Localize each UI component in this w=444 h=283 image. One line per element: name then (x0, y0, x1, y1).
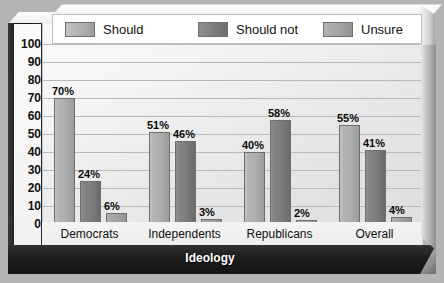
legend-item[interactable]: Unsure (323, 20, 403, 38)
y-axis-tick-label: 100 (15, 38, 41, 50)
x-axis-title: Ideology (8, 251, 412, 265)
x-axis-category-label: Independents (137, 227, 232, 241)
y-axis-tick-label: 70 (15, 92, 41, 104)
gridline (43, 134, 423, 135)
gridline (43, 80, 423, 81)
y-axis-tick-label: 90 (15, 56, 41, 68)
bar-value-label: 3% (199, 206, 215, 218)
x-axis-category-label: Democrats (42, 227, 137, 241)
bar (175, 141, 196, 224)
chart-3d-frame: Percent 1009080706050403020100 70%24%6%5… (0, 0, 444, 283)
chart-screenshot: Percent 1009080706050403020100 70%24%6%5… (0, 0, 444, 283)
y-axis-tick-label: 0 (15, 218, 41, 230)
legend-label: Should not (236, 22, 298, 37)
bar-value-label: 4% (389, 204, 405, 216)
gridline (43, 62, 423, 63)
bar-value-label: 46% (173, 128, 195, 140)
bar-value-label: 24% (78, 168, 100, 180)
gridline (43, 116, 423, 117)
legend-label: Unsure (361, 22, 403, 37)
y-axis-tick-label: 50 (15, 128, 41, 140)
bar-value-label: 51% (147, 119, 169, 131)
x-axis-category-label: Overall (327, 227, 422, 241)
y-axis-tick-label: 60 (15, 110, 41, 122)
legend-swatch-icon (323, 22, 353, 37)
bar-value-label: 41% (363, 137, 385, 149)
gridline (43, 44, 423, 45)
x-axis-category-labels: DemocratsIndependentsRepublicansOverall (42, 222, 422, 246)
y-axis-tick-label: 20 (15, 182, 41, 194)
bar-value-label: 2% (294, 207, 310, 219)
plot-area: 70%24%6%51%46%3%40%58%2%55%41%4% (42, 24, 423, 246)
y-axis-tick-column: 1009080706050403020100 (14, 24, 41, 246)
bar-value-label: 6% (104, 200, 120, 212)
bar-value-label: 55% (337, 112, 359, 124)
bar (244, 152, 265, 224)
gridline (43, 98, 423, 99)
legend-item[interactable]: Should not (198, 20, 298, 38)
legend-label: Should (103, 22, 143, 37)
x-axis-category-label: Republicans (232, 227, 327, 241)
y-axis-tick-label: 30 (15, 164, 41, 176)
legend-item[interactable]: Should (65, 20, 143, 38)
y-axis-tick-label: 40 (15, 146, 41, 158)
bar (54, 98, 75, 224)
legend: ShouldShould notUnsure (52, 14, 422, 44)
x-axis-band: Ideology (8, 245, 436, 274)
bar-value-label: 70% (52, 85, 74, 97)
bar-value-label: 40% (242, 139, 264, 151)
legend-swatch-icon (65, 22, 95, 37)
floor-bevel-corner (420, 245, 436, 274)
y-axis-tick-label: 80 (15, 74, 41, 86)
right-bevel-edge (421, 24, 436, 250)
bar (339, 125, 360, 224)
bar (270, 120, 291, 224)
bar-value-label: 58% (268, 107, 290, 119)
bar (365, 150, 386, 224)
legend-swatch-icon (198, 22, 228, 37)
bar (149, 132, 170, 224)
bar (80, 181, 101, 224)
y-axis-tick-label: 10 (15, 200, 41, 212)
